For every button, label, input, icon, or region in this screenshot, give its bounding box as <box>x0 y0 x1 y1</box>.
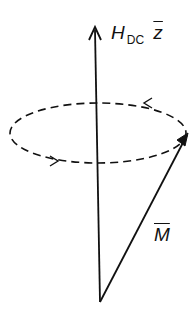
precession-diagram <box>0 0 192 312</box>
orbit-direction-arrow-bottom <box>50 156 58 166</box>
field-label-subscript: DC <box>127 33 144 47</box>
field-unit-vector: z <box>153 22 163 43</box>
field-label-main: H <box>111 22 125 43</box>
field-label: HDC z <box>111 22 163 44</box>
magnetization-vector-line <box>100 135 187 302</box>
orbit-direction-arrow-top <box>144 98 152 108</box>
magnetization-label: M <box>154 224 170 246</box>
field-axis-line <box>95 30 100 302</box>
